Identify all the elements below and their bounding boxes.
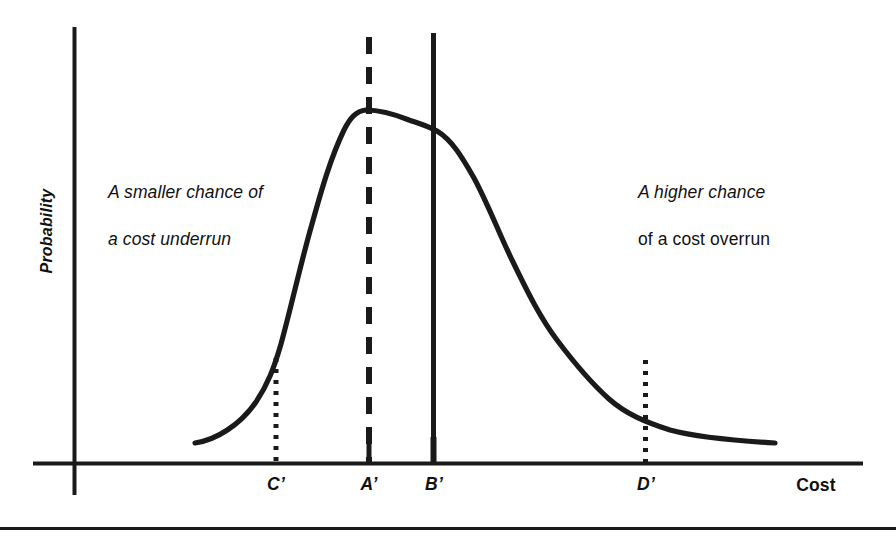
marker-label-c: C’ — [252, 474, 300, 495]
x-axis-title: Cost — [770, 475, 862, 496]
annotation-underrun-line-2: a cost underrun — [108, 229, 231, 249]
marker-label-b: B’ — [410, 474, 458, 495]
marker-label-a: A’ — [345, 474, 393, 495]
plot-canvas — [0, 0, 896, 536]
probability-cost-figure: Probability Cost A smaller chance of a c… — [0, 0, 896, 536]
y-axis-title: Probability — [38, 171, 56, 291]
annotation-underrun-line-1: A smaller chance of — [108, 182, 263, 202]
annotation-overrun-line-1: A higher chance — [638, 182, 765, 202]
annotation-cost-underrun: A smaller chance of a cost underrun — [108, 157, 348, 252]
annotation-overrun-line-2: of a cost overrun — [638, 229, 770, 249]
marker-label-d: D’ — [622, 474, 670, 495]
annotation-cost-overrun: A higher chance of a cost overrun — [638, 157, 848, 252]
